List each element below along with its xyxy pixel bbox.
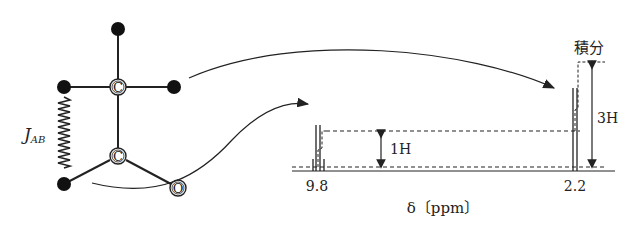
integration-label-3h: 3H bbox=[597, 110, 618, 126]
atom-c1: C bbox=[110, 79, 126, 95]
hydrogen-bottom bbox=[57, 177, 71, 191]
shift-label-9-8: 9.8 bbox=[306, 178, 328, 194]
hydrogen-right bbox=[167, 80, 181, 94]
hydrogen-top bbox=[111, 22, 125, 36]
nmr-diagram: C C O JAB 1H 9.8 3H 2.2 積分 δ〔ppm〕 bbox=[0, 0, 638, 230]
bond-c-o bbox=[126, 160, 171, 184]
svg-text:C: C bbox=[113, 80, 123, 95]
arrow-methyl-to-peak bbox=[189, 50, 554, 88]
integral-title: 積分 bbox=[574, 39, 604, 57]
integration-label-1h: 1H bbox=[390, 141, 411, 157]
svg-text:C: C bbox=[113, 149, 123, 164]
integral-curve-9-8 bbox=[318, 131, 326, 167]
bond-h-bottom bbox=[64, 160, 110, 184]
arrow-aldehyde-to-peak bbox=[92, 103, 308, 188]
coupling-label: JAB bbox=[21, 124, 45, 145]
hydrogen-left bbox=[57, 80, 71, 94]
coupling-spring-icon bbox=[58, 97, 70, 168]
axis-label-ppm: δ〔ppm〕 bbox=[407, 199, 479, 217]
atom-c2: C bbox=[110, 148, 126, 164]
svg-text:O: O bbox=[173, 181, 184, 196]
shift-label-2-2: 2.2 bbox=[564, 178, 586, 194]
